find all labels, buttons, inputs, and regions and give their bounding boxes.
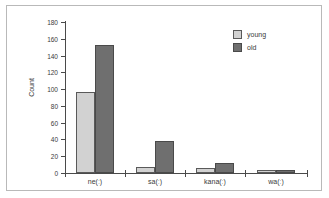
y-tick-label: 40 (18, 136, 58, 143)
bar-young[interactable] (257, 170, 276, 173)
legend-swatch-icon (233, 30, 242, 39)
legend-label: young (247, 30, 266, 39)
x-axis-line (65, 173, 308, 174)
y-tick-label: 80 (18, 103, 58, 110)
y-tick-label: 0 (18, 170, 58, 177)
y-tick-label: 160 (18, 36, 58, 43)
legend-item-young[interactable]: young (233, 29, 266, 40)
bar-young[interactable] (196, 168, 215, 173)
y-tick-label: 20 (18, 153, 58, 160)
bar-young[interactable] (76, 92, 95, 173)
legend: young old (233, 29, 266, 55)
y-tick-label: 140 (18, 53, 58, 60)
legend-item-old[interactable]: old (233, 42, 266, 53)
legend-swatch-icon (233, 43, 242, 52)
bar-old[interactable] (95, 45, 114, 173)
bar-group (65, 22, 125, 173)
y-tick-label: 60 (18, 120, 58, 127)
plot-area: Count 0 20 40 60 80 100 120 140 160 180 (0, 0, 329, 198)
bar-chart-figure: Count 0 20 40 60 80 100 120 140 160 180 (0, 0, 329, 198)
x-tick-label: kana(ː) (180, 178, 250, 185)
bar-group (125, 22, 185, 173)
bar-old[interactable] (276, 170, 295, 173)
legend-label: old (247, 43, 256, 52)
y-tick-label: 120 (18, 69, 58, 76)
bar-group-bars (65, 22, 125, 173)
bar-old[interactable] (155, 141, 174, 173)
y-tick-label: 180 (18, 19, 58, 26)
bar-young[interactable] (136, 167, 155, 173)
bar-old[interactable] (215, 163, 234, 173)
bar-group-bars (125, 22, 185, 173)
x-tick-label: wa(ː) (241, 178, 311, 185)
y-tick-label: 100 (18, 86, 58, 93)
x-tick-mark (307, 170, 308, 177)
